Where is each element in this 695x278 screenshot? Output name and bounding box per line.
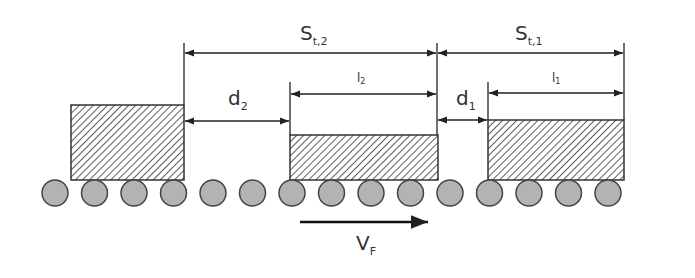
- load-box-1: [488, 120, 624, 180]
- label-s-t1: St,1: [515, 21, 543, 48]
- roller-row: [42, 180, 621, 206]
- load-box-2: [290, 135, 438, 180]
- label-l2: l2: [357, 71, 365, 86]
- dimension-arrows: [185, 53, 623, 121]
- label-d2: d2: [228, 86, 248, 113]
- label-vf: VF: [356, 231, 376, 258]
- label-l1: l1: [552, 71, 560, 86]
- label-s-t2: St,2: [300, 21, 328, 48]
- label-d1: d1: [456, 86, 476, 113]
- load-box-3: [71, 105, 184, 180]
- conveyor-diagram: St,2 St,1 d2 d1 l2 l1 VF: [0, 0, 695, 278]
